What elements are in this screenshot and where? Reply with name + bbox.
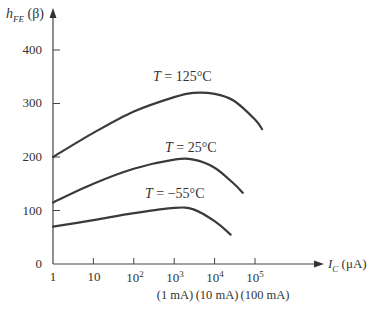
x-tick-label: 105	[235, 269, 275, 286]
y-tick-label: 300	[12, 95, 42, 111]
y-tick-label: 400	[12, 42, 42, 58]
curve-label-125c: T = 125°C	[153, 69, 212, 85]
y-axis-title-rest: (β)	[24, 6, 44, 21]
y-axis-title-sub: FE	[13, 14, 24, 24]
x-ticks	[93, 258, 255, 264]
curves	[53, 93, 262, 235]
curve-0	[53, 93, 262, 157]
y-axis-arrow-icon	[50, 8, 57, 18]
x-tick-label: 102	[115, 269, 155, 286]
x-tick-label: 103	[155, 269, 195, 286]
x-sublabel-100ma: (100 mA)	[230, 288, 300, 303]
x-tick-label: 104	[195, 269, 235, 286]
y-axis-title-main: h	[6, 6, 13, 21]
x-tick-label: 10	[74, 269, 114, 285]
curve-label-minus55c: T = −55°C	[145, 186, 205, 202]
y-axis-title: hFE (β)	[6, 6, 44, 24]
x-tick-label: 1	[33, 269, 73, 285]
y-ticks	[53, 50, 60, 211]
curve-2	[53, 207, 231, 234]
curve-label-25c: T = 25°C	[165, 140, 217, 156]
x-axis-arrow-icon	[314, 261, 324, 268]
y-tick-label: 200	[12, 149, 42, 165]
y-tick-label: 100	[12, 203, 42, 219]
x-axis-title: IC (μA)	[328, 256, 367, 274]
